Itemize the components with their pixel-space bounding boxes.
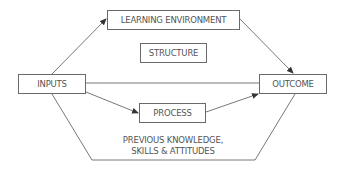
node-learning-environment: LEARNING ENVIRONMENT <box>107 10 240 30</box>
arrow-inputs-to-process <box>86 92 138 113</box>
arrow-learning-environment-to-outcome <box>240 19 293 73</box>
label-line-1: PREVIOUS KNOWLEDGE, <box>98 135 248 146</box>
arrow-inputs-to-learning-environment <box>52 19 106 74</box>
node-outcome: OUTCOME <box>259 74 327 94</box>
node-inputs: INPUTS <box>18 74 86 94</box>
node-process: PROCESS <box>139 103 206 123</box>
arrow-process-to-outcome <box>206 94 258 112</box>
node-structure: STRUCTURE <box>140 43 207 63</box>
label-previous-knowledge: PREVIOUS KNOWLEDGE, SKILLS & ATTITUDES <box>98 135 248 157</box>
label-line-2: SKILLS & ATTITUDES <box>98 146 248 157</box>
